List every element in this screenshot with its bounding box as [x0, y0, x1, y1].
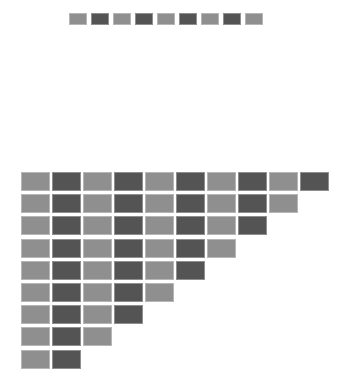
board-tile[interactable] [21, 283, 50, 302]
board-tile[interactable] [21, 327, 50, 346]
board-tile[interactable] [21, 239, 50, 258]
board-tile[interactable] [114, 239, 143, 258]
board-tile[interactable] [21, 194, 50, 213]
board-tile[interactable] [145, 283, 174, 302]
board-tile[interactable] [83, 305, 112, 324]
board-tile[interactable] [83, 216, 112, 235]
board-tile[interactable] [238, 194, 267, 213]
board-tile[interactable] [52, 261, 81, 280]
board-tile[interactable] [207, 194, 236, 213]
board-tile[interactable] [238, 172, 267, 191]
board-tile[interactable] [83, 239, 112, 258]
board-tile[interactable] [52, 305, 81, 324]
board-tile[interactable] [83, 261, 112, 280]
board-tile[interactable] [145, 216, 174, 235]
board-tile[interactable] [145, 239, 174, 258]
board-tile[interactable] [52, 239, 81, 258]
board-tile[interactable] [145, 261, 174, 280]
board-tile[interactable] [21, 305, 50, 324]
board-tile[interactable] [145, 172, 174, 191]
board-tile[interactable] [238, 216, 267, 235]
board-tile[interactable] [114, 194, 143, 213]
board-tile[interactable] [83, 283, 112, 302]
board-tile[interactable] [207, 216, 236, 235]
board-tile[interactable] [269, 172, 298, 191]
board-tile[interactable] [83, 327, 112, 346]
board-tile[interactable] [176, 239, 205, 258]
board-tile[interactable] [269, 194, 298, 213]
board-tile[interactable] [176, 261, 205, 280]
board-tile[interactable] [52, 172, 81, 191]
board-tile[interactable] [52, 283, 81, 302]
board-tile[interactable] [176, 216, 205, 235]
board-tile[interactable] [114, 261, 143, 280]
board-tile[interactable] [300, 172, 329, 191]
board-tile[interactable] [21, 216, 50, 235]
board-tile[interactable] [207, 239, 236, 258]
board-tile[interactable] [52, 216, 81, 235]
board-tile[interactable] [114, 216, 143, 235]
board-tile[interactable] [52, 194, 81, 213]
board-tile[interactable] [21, 350, 50, 369]
board-tile[interactable] [176, 194, 205, 213]
board-tile[interactable] [83, 194, 112, 213]
board-tile[interactable] [21, 172, 50, 191]
board-tile[interactable] [83, 172, 112, 191]
board-tile[interactable] [114, 305, 143, 324]
board-tile[interactable] [145, 194, 174, 213]
board-tile[interactable] [114, 283, 143, 302]
board-tile[interactable] [114, 172, 143, 191]
board-tile[interactable] [52, 350, 81, 369]
board-tile[interactable] [207, 172, 236, 191]
board-tile[interactable] [176, 172, 205, 191]
board-tile[interactable] [52, 327, 81, 346]
board-tile[interactable] [21, 261, 50, 280]
